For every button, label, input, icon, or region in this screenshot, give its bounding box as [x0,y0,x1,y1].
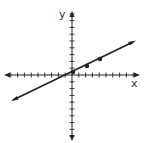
data-point [85,64,89,68]
data-point [98,57,102,61]
x-axis-left-arrow-icon [4,73,10,78]
coordinate-plane: y x [0,0,145,143]
graph-svg [0,0,145,143]
line-upper-arrow-icon [128,41,136,46]
x-axis-label: x [131,78,138,89]
y-axis-label: y [59,9,66,20]
axes [8,14,137,138]
line-lower-arrow-icon [11,96,19,101]
data-point [71,70,75,74]
